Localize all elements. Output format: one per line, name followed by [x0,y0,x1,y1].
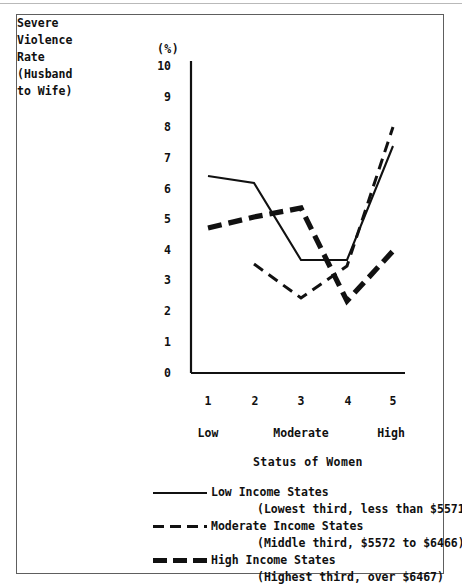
page-top-rule [0,3,462,4]
legend-item-low-income: Low Income States [153,485,453,502]
legend-label-high-income: High Income States [211,553,336,567]
x-group-label-moderate: Moderate [261,426,341,440]
plot-area [17,15,445,415]
legend-swatch-dashed-line-icon [153,525,207,528]
legend-item-moderate-income: Moderate Income States [153,519,453,536]
series-low-income-line [208,146,393,260]
x-group-label-high: High [365,426,417,440]
chart-legend: Low Income States (Lowest third, less th… [153,485,453,587]
x-group-label-low: Low [180,426,236,440]
x-axis-title: Status of Women [253,455,363,470]
series-high-income-line [208,208,393,301]
legend-swatch-solid-line-icon [153,492,207,494]
legend-label-low-income: Low Income States [211,485,329,499]
figure-frame: (%) Severe Violence Rate (Husband to Wif… [16,14,444,574]
legend-sublabel-low-income: (Lowest third, less than $5571) [153,502,453,519]
legend-swatch-thick-dashed-line-icon [153,558,207,563]
legend-item-high-income: High Income States [153,553,453,570]
legend-sublabel-high-income: (Highest third, over $6467) [153,570,453,587]
legend-label-moderate-income: Moderate Income States [211,519,363,533]
legend-sublabel-moderate-income: (Middle third, $5572 to $6466) [153,536,453,553]
